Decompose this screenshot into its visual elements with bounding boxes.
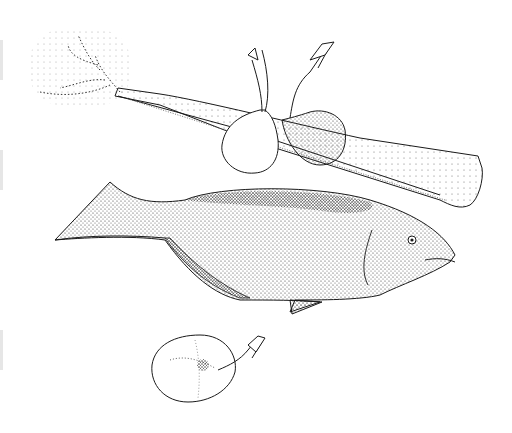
- illustration-canvas: [0, 0, 512, 433]
- fish: [55, 182, 455, 314]
- drawing: [0, 0, 512, 433]
- shrimp-pair: [222, 42, 346, 173]
- celery-leaves: [30, 30, 130, 105]
- single-shrimp: [152, 335, 265, 402]
